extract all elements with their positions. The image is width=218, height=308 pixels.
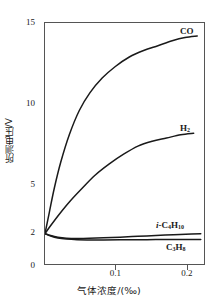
y-tick-label-15: 15 bbox=[13, 18, 35, 27]
y-axis-title: 所测电压/V bbox=[4, 118, 18, 163]
series-label-h2: H2 bbox=[180, 124, 190, 135]
y-tick-label-10: 10 bbox=[13, 99, 35, 108]
y-tick-label-5: 5 bbox=[13, 180, 35, 189]
x-tick-label-0-1: 0.1 bbox=[100, 268, 130, 278]
y-tick-label-0: 0 bbox=[13, 261, 35, 270]
series-label-c3h8: C3H8 bbox=[166, 243, 186, 254]
series-line-i-c4h10 bbox=[45, 234, 201, 239]
x-axis-title: 气体浓度/(‰) bbox=[0, 285, 218, 296]
series-line-h2 bbox=[45, 133, 194, 233]
series-label-co: CO bbox=[180, 27, 194, 36]
y-tick-label-2: 2 bbox=[13, 228, 35, 237]
series-label-i-c4h10: i-C4H10 bbox=[156, 221, 184, 232]
chart-figure: 0 2 5 10 15 0.1 0.2 所测电压/V 气体浓度/(‰) CO H… bbox=[0, 0, 218, 308]
x-tick-label-0-2: 0.2 bbox=[172, 268, 202, 278]
